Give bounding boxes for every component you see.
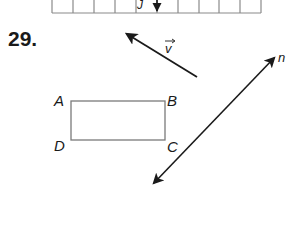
vertex-label-c: C xyxy=(167,138,178,155)
vertex-label-a: A xyxy=(53,92,64,109)
vector-v xyxy=(127,34,197,77)
vertex-label-b: B xyxy=(167,92,177,109)
line-n xyxy=(154,58,274,183)
vector-label: v xyxy=(165,41,173,56)
diagram-canvas: J v n A B C D xyxy=(0,0,290,227)
grid-point-label: J xyxy=(136,0,144,12)
vertex-label-d: D xyxy=(54,137,65,154)
vector-v-label: v xyxy=(165,39,175,56)
line-label: n xyxy=(278,50,285,65)
rectangle-abcd xyxy=(71,101,165,140)
problem-number: 29. xyxy=(8,27,37,51)
geometry-figure: 29. J xyxy=(0,0,290,227)
down-arrow-icon xyxy=(153,0,162,12)
